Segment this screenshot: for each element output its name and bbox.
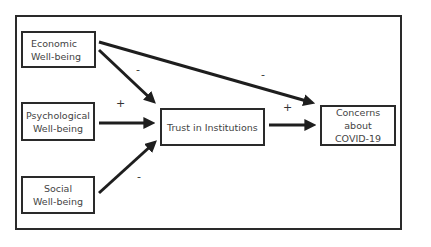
node-label: Economic bbox=[31, 37, 77, 50]
node-label: COVID-19 bbox=[335, 132, 381, 145]
node-label: Psychological bbox=[26, 109, 90, 122]
node-label: Social bbox=[44, 182, 72, 195]
node-psychological-wellbeing: Psychological Well-being bbox=[21, 102, 95, 141]
node-label: Well-being bbox=[31, 50, 81, 63]
arrow-social-to-trust bbox=[99, 144, 153, 193]
sign-economic-trust: - bbox=[136, 63, 140, 76]
node-label: Well-being bbox=[33, 122, 83, 135]
node-label: Trust in Institutions bbox=[167, 121, 258, 134]
node-trust-in-institutions: Trust in Institutions bbox=[160, 108, 265, 146]
node-label: Well-being bbox=[33, 195, 83, 208]
sign-economic-concerns: - bbox=[261, 68, 265, 81]
arrow-economic-to-trust bbox=[99, 50, 152, 100]
node-label: Concerns about bbox=[322, 106, 394, 132]
node-economic-wellbeing: Economic Well-being bbox=[21, 31, 96, 68]
sign-trust-concerns: + bbox=[283, 101, 292, 114]
sign-social-trust: - bbox=[137, 170, 141, 183]
sign-psychological-trust: + bbox=[116, 97, 125, 110]
node-social-wellbeing: Social Well-being bbox=[21, 176, 95, 214]
node-concerns-about-covid: Concerns about COVID-19 bbox=[320, 105, 396, 146]
arrow-economic-to-concerns bbox=[99, 42, 310, 102]
